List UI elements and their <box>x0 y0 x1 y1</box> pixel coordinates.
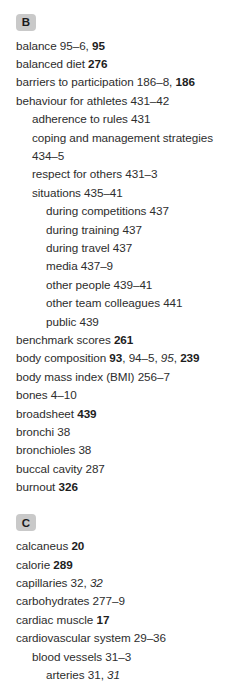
entry-text: bronchi 38 <box>16 425 70 438</box>
index-entry[interactable]: balanced diet 276 <box>16 55 220 73</box>
entry-text: blood vessels 31–3 <box>32 650 131 663</box>
page-ref-bold: 276 <box>88 57 107 70</box>
entry-text: burnout <box>16 480 59 493</box>
index-entry-list: balance 95–6, 95balanced diet 276barrier… <box>16 37 220 497</box>
entry-text: carbohydrates 277–9 <box>16 594 125 607</box>
entry-text: cardiovascular system 29–36 <box>16 631 166 644</box>
index-entry[interactable]: coping and management strategies 434–5 <box>16 129 220 166</box>
page-ref-italic: 31 <box>107 668 120 681</box>
entry-text: media 437–9 <box>46 259 113 272</box>
entry-text: balance 95–6, <box>16 39 92 52</box>
index-entry[interactable]: arteries 31, 31 <box>16 666 220 684</box>
entry-text: during training 437 <box>46 223 142 236</box>
index-entry[interactable]: other people 439–41 <box>16 276 220 294</box>
entry-text: bones 4–10 <box>16 388 77 401</box>
index-entry[interactable]: other team colleagues 441 <box>16 294 220 312</box>
index-entry[interactable]: bones 4–10 <box>16 386 220 404</box>
index-entry[interactable]: broadsheet 439 <box>16 405 220 423</box>
index-entry[interactable]: barriers to participation 186–8, 186 <box>16 73 220 91</box>
entry-text: benchmark scores <box>16 333 114 346</box>
index-entry[interactable]: cardiac muscle 17 <box>16 611 220 629</box>
entry-text: calorie <box>16 558 53 571</box>
page-ref-italic: 32 <box>90 576 103 589</box>
entry-text: cardiac muscle <box>16 613 96 626</box>
entry-text: during travel 437 <box>46 241 132 254</box>
entry-text: situations 435–41 <box>32 186 123 199</box>
index-entry[interactable]: during competitions 437 <box>16 202 220 220</box>
page-ref-bold: 289 <box>53 558 72 571</box>
entry-text: other team colleagues 441 <box>46 296 183 309</box>
index-entry[interactable]: capillaries 32, 32 <box>16 574 220 592</box>
index-entry[interactable]: cardiovascular system 29–36 <box>16 629 220 647</box>
index-entry[interactable]: calorie 289 <box>16 556 220 574</box>
page-ref-bold: 95 <box>92 39 105 52</box>
index-entry[interactable]: media 437–9 <box>16 257 220 275</box>
index-entry[interactable]: public 439 <box>16 313 220 331</box>
index-entry[interactable]: during travel 437 <box>16 239 220 257</box>
index-entry[interactable]: burnout 326 <box>16 478 220 496</box>
entry-text: other people 439–41 <box>46 278 152 291</box>
entry-text: , 94–5, <box>122 351 161 364</box>
clipped-top-line <box>16 0 220 9</box>
entry-text: barriers to participation 186–8, <box>16 75 175 88</box>
index-entry[interactable]: behaviour for athletes 431–42 <box>16 92 220 110</box>
page-ref-bold: 93 <box>109 351 122 364</box>
index-entry[interactable]: during training 437 <box>16 221 220 239</box>
entry-text: body mass index (BMI) 256–7 <box>16 370 170 383</box>
page-ref-bold: 17 <box>96 613 109 626</box>
entry-text: public 439 <box>46 315 99 328</box>
index-entry[interactable]: balance 95–6, 95 <box>16 37 220 55</box>
page-ref-bold: 239 <box>180 351 199 364</box>
index-entry[interactable]: situations 435–41 <box>16 184 220 202</box>
index-entry[interactable]: bronchioles 38 <box>16 441 220 459</box>
entry-text: respect for others 431–3 <box>32 167 158 180</box>
index-entry[interactable]: body mass index (BMI) 256–7 <box>16 368 220 386</box>
entry-text: bronchioles 38 <box>16 443 91 456</box>
index-entry[interactable]: carbohydrates 277–9 <box>16 592 220 610</box>
letter-group-c: Ccalcaneus 20calorie 289capillaries 32, … <box>16 513 220 684</box>
entry-text: during competitions 437 <box>46 204 169 217</box>
entry-text: arteries 31, <box>46 668 107 681</box>
entry-text: capillaries 32, <box>16 576 90 589</box>
index-entry[interactable]: bronchi 38 <box>16 423 220 441</box>
page-ref-bold: 439 <box>77 407 96 420</box>
letter-group-b: Bbalance 95–6, 95balanced diet 276barrie… <box>16 12 220 497</box>
index-column: Bbalance 95–6, 95balanced diet 276barrie… <box>0 12 226 684</box>
entry-text: buccal cavity 287 <box>16 462 105 475</box>
index-entry[interactable]: benchmark scores 261 <box>16 331 220 349</box>
page-ref-bold: 20 <box>71 539 84 552</box>
index-entry[interactable]: buccal cavity 287 <box>16 460 220 478</box>
entry-text: adherence to rules 431 <box>32 112 150 125</box>
entry-text: coping and management strategies 434–5 <box>32 131 213 162</box>
page-ref-bold: 261 <box>114 333 133 346</box>
page-ref-bold: 186 <box>175 75 194 88</box>
page-ref-italic: 95 <box>161 351 174 364</box>
entry-text: body composition <box>16 351 109 364</box>
index-entry[interactable]: calcaneus 20 <box>16 537 220 555</box>
index-entry[interactable]: blood vessels 31–3 <box>16 648 220 666</box>
index-entry[interactable]: body composition 93, 94–5, 95, 239 <box>16 349 220 367</box>
letter-heading-badge: C <box>16 514 36 531</box>
index-entry[interactable]: respect for others 431–3 <box>16 165 220 183</box>
entry-text: behaviour for athletes 431–42 <box>16 94 169 107</box>
page-ref-bold: 326 <box>59 480 78 493</box>
entry-text: broadsheet <box>16 407 77 420</box>
entry-text: calcaneus <box>16 539 71 552</box>
index-entry[interactable]: adherence to rules 431 <box>16 110 220 128</box>
letter-heading-badge: B <box>16 14 36 31</box>
entry-text: balanced diet <box>16 57 88 70</box>
index-entry-list: calcaneus 20calorie 289capillaries 32, 3… <box>16 537 220 684</box>
